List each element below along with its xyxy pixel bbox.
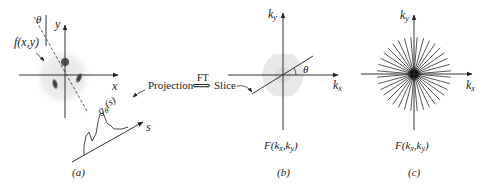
s-axis [72,122,143,162]
ky-axis-label-c: ky [400,9,409,23]
object-blob [33,47,93,107]
panel-c [361,15,472,130]
theta-label-a: θ [36,14,41,25]
theta-label-b: θ [303,64,308,75]
x-subscript: x [471,84,475,93]
y-subscript: y [405,14,409,23]
F-symbol: F( [264,139,274,151]
s-axis-label: s [146,121,151,133]
function-label-f: f(x,y) [14,36,39,48]
close-paren: ) [294,139,298,151]
caption-b: (b) [277,167,290,178]
ky-axis-label-b: ky [268,8,277,22]
caption-a: (a) [72,167,85,178]
y-axis-label-a: y [55,18,60,30]
y-subscript: y [273,13,277,22]
diagram-canvas [0,0,488,185]
kx-axis-label-b: kx [333,79,342,93]
slice-pointer-arrow [237,86,252,92]
panel-b [228,13,338,130]
x-axis-label-a: x [112,80,117,92]
close-paren: ) [425,139,429,151]
slice-label: Slice [214,80,236,91]
projection-label: Projection [148,80,193,91]
fourier-label-b: F(kx,ky) [264,140,298,153]
F-symbol: F( [395,139,405,151]
x-subscript: x [338,84,342,93]
kx-axis-label-c: kx [466,79,475,93]
fourier-label-c: F(kx,ky) [395,140,429,153]
projection-pointer-arrow [133,90,145,97]
ft-double-arrow: ⟺ [192,79,211,92]
caption-c: (c) [408,167,420,178]
